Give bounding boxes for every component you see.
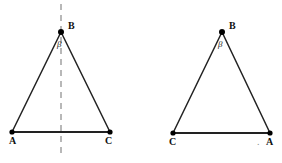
left-triangle-angle-beta-label: β bbox=[57, 40, 61, 49]
left-triangle-edge-ab bbox=[12, 32, 61, 132]
right-vertex-dot-b bbox=[219, 29, 225, 35]
left-triangle-label-a: A bbox=[9, 136, 16, 146]
left-vertex-dot-a bbox=[9, 129, 14, 134]
left-vertex-dot-b bbox=[58, 29, 64, 35]
right-triangle-edge-cb bbox=[173, 32, 222, 133]
right-triangle-edge-ba bbox=[222, 32, 270, 133]
right-triangle-label-c: C bbox=[169, 137, 176, 147]
right-triangle-stray-dot-mark: . bbox=[257, 137, 260, 147]
left-triangle-label-c: C bbox=[105, 136, 112, 146]
right-vertex-dot-a bbox=[267, 130, 272, 135]
left-vertex-dot-c bbox=[107, 129, 112, 134]
right-triangle-angle-beta-label: β bbox=[218, 40, 222, 49]
right-triangle-label-b: B bbox=[229, 21, 236, 31]
geometry-figure-canvas bbox=[0, 0, 282, 163]
left-triangle-edge-bc bbox=[61, 32, 110, 132]
right-vertex-dot-c bbox=[170, 130, 175, 135]
left-triangle-label-b: B bbox=[68, 21, 75, 31]
right-triangle-label-a: A bbox=[266, 137, 273, 147]
